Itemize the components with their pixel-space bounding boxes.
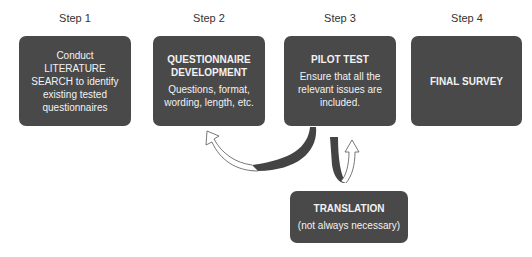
loop-arrow-pilot-to-translation-icon <box>330 137 359 183</box>
loop-arrow-pilot-to-development-icon <box>206 127 316 171</box>
feedback-arrows <box>0 0 532 257</box>
